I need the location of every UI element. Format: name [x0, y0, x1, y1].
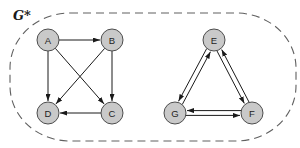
node-label-C: C: [109, 108, 116, 119]
node-label-B: B: [109, 35, 115, 46]
graph-figure: ABCDEGF G*: [0, 0, 300, 148]
edge-E-G: [179, 49, 207, 102]
edge-F-E: [222, 50, 249, 103]
node-label-D: D: [45, 108, 52, 119]
node-label-G: G: [171, 108, 178, 119]
graph-label: G*: [13, 8, 31, 23]
node-label-F: F: [249, 108, 255, 119]
digraph-canvas: ABCDEGF G*: [0, 0, 300, 148]
edge-E-F: [217, 51, 244, 104]
edge-G-E: [182, 52, 210, 105]
node-label-E: E: [211, 35, 217, 46]
node-label-A: A: [45, 35, 52, 46]
